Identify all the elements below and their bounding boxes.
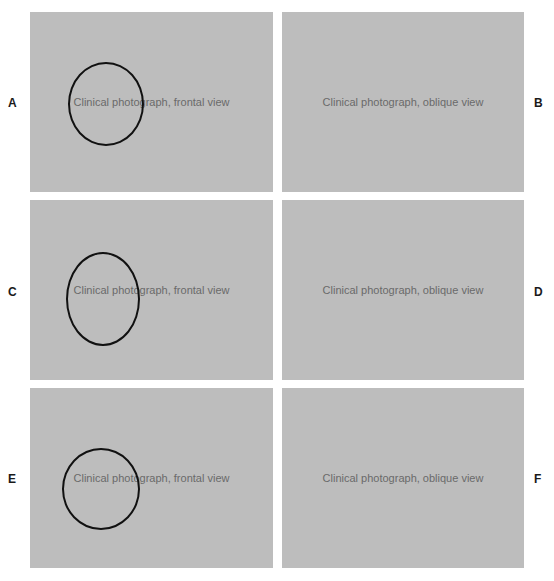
panel-d-placeholder: Clinical photograph, oblique view xyxy=(282,200,524,380)
panel-c-circle-marker xyxy=(66,252,140,346)
panel-f-image: Clinical photograph, oblique view xyxy=(282,388,524,568)
panel-c-image: Clinical photograph, frontal view xyxy=(30,200,273,380)
panel-d-image: Clinical photograph, oblique view xyxy=(282,200,524,380)
panel-label-e: E xyxy=(8,472,16,486)
panel-label-d: D xyxy=(534,285,543,299)
panel-f-placeholder: Clinical photograph, oblique view xyxy=(282,388,524,568)
panel-a-circle-marker xyxy=(68,62,144,146)
panel-b-placeholder: Clinical photograph, oblique view xyxy=(282,12,524,192)
panel-b-image: Clinical photograph, oblique view xyxy=(282,12,524,192)
panel-label-b: B xyxy=(534,96,543,110)
panel-label-c: C xyxy=(8,285,17,299)
panel-e-image: Clinical photograph, frontal view xyxy=(30,388,273,568)
panel-e-circle-marker xyxy=(62,448,140,530)
panel-label-a: A xyxy=(8,96,17,110)
panel-a-placeholder: Clinical photograph, frontal view xyxy=(30,12,273,192)
panel-label-f: F xyxy=(534,472,541,486)
panel-a-image: Clinical photograph, frontal view xyxy=(30,12,273,192)
